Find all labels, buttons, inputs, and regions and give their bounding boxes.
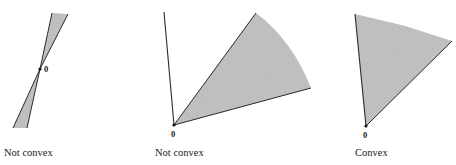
shaded-cone bbox=[355, 14, 452, 126]
shaded-wedge bbox=[174, 13, 311, 125]
origin-point bbox=[172, 123, 175, 126]
origin-label-3: 0 bbox=[363, 131, 367, 140]
origin-label-1: 0 bbox=[44, 65, 48, 74]
separate-ray bbox=[164, 12, 174, 125]
caption-figure-1: Not convex bbox=[4, 148, 53, 159]
origin-point bbox=[364, 124, 367, 127]
caption-figure-3: Convex bbox=[355, 148, 388, 159]
figure-single-cone bbox=[355, 14, 452, 128]
figure-double-cone bbox=[13, 13, 68, 128]
origin-label-2: 0 bbox=[171, 130, 175, 139]
origin-point bbox=[38, 67, 41, 70]
caption-figure-2: Not convex bbox=[155, 148, 204, 159]
convexity-diagram bbox=[0, 0, 456, 165]
figure-wedge-with-ray bbox=[164, 12, 311, 127]
